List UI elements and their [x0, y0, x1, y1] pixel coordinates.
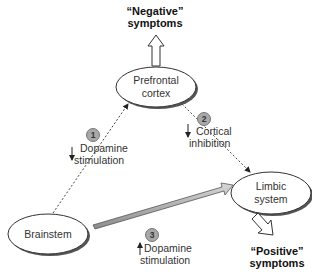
negative-symptoms-line2: symptoms: [110, 17, 200, 29]
negative-symptoms-label: “Negative” symptoms: [110, 5, 200, 29]
schizophrenia-dopamine-diagram: “Negative” symptoms “Positive” symptoms …: [0, 0, 312, 277]
negative-symptoms-line1: “Negative”: [110, 5, 200, 17]
pathway-3-label: Dopamine stimulation: [144, 242, 204, 266]
pathway-1-label: Dopamine stimulation: [74, 142, 134, 166]
pathway-1-badge: 1: [86, 128, 100, 142]
pathway-1-line2: stimulation: [74, 154, 134, 166]
prefrontal-cortex-label: Prefrontal cortex: [116, 74, 196, 100]
pathway-3-arrow: [93, 183, 233, 229]
positive-symptoms-line1: “Positive”: [242, 245, 312, 257]
limbic-line1: Limbic: [231, 180, 311, 193]
limbic-system-label: Limbic system: [231, 180, 311, 206]
pathway-3-line1: Dopamine: [144, 242, 204, 254]
negative-output-arrow: [148, 35, 164, 66]
limbic-line2: system: [231, 193, 311, 206]
pathway-2-line1: Cortical: [192, 125, 252, 137]
positive-symptoms-label: “Positive” symptoms: [242, 245, 312, 269]
prefrontal-line2: cortex: [116, 87, 196, 100]
pathway-2-line2: inhibition: [189, 137, 252, 149]
pathway-3-badge: 3: [145, 228, 159, 242]
pathway-2-badge: 2: [197, 112, 211, 126]
positive-output-arrow: [252, 213, 273, 235]
prefrontal-line1: Prefrontal: [116, 74, 196, 87]
positive-symptoms-line2: symptoms: [242, 257, 312, 269]
pathway-2-label: Cortical inhibition: [192, 125, 252, 149]
brainstem-label: Brainstem: [8, 228, 88, 241]
pathway-1-line1: Dopamine: [74, 142, 134, 154]
pathway-3-line2: stimulation: [140, 254, 204, 266]
